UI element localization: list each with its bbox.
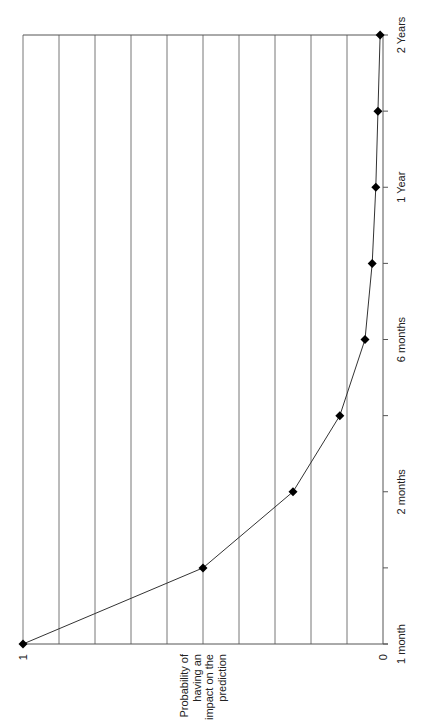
diamond-marker	[368, 259, 377, 268]
value-axis-title-line: Probability of	[178, 653, 190, 718]
diamond-marker	[373, 107, 382, 116]
value-axis-title-line: prediction	[216, 654, 228, 702]
category-label: 2 months	[395, 469, 407, 515]
diamond-marker	[335, 411, 344, 420]
category-label: 6 months	[395, 316, 407, 362]
diamond-marker	[371, 183, 380, 192]
value-axis-title-line: having an	[191, 654, 203, 702]
value-axis-title-line: impact on the	[203, 654, 215, 720]
probability-chart: 1 month2 months6 months1 Year2 Years01Pr…	[0, 0, 431, 723]
gridlines	[23, 35, 383, 644]
value-label-0: 0	[377, 654, 389, 660]
axes	[23, 35, 388, 644]
category-label: 1 Year	[395, 171, 407, 203]
data-series	[19, 31, 385, 649]
category-label: 1 month	[395, 624, 407, 664]
diamond-marker	[361, 335, 370, 344]
value-label-1: 1	[17, 654, 29, 660]
diamond-marker	[19, 640, 28, 649]
series-line	[23, 35, 380, 644]
axis-labels: 1 month2 months6 months1 Year2 Years01Pr…	[17, 16, 407, 720]
category-label: 2 Years	[395, 16, 407, 53]
